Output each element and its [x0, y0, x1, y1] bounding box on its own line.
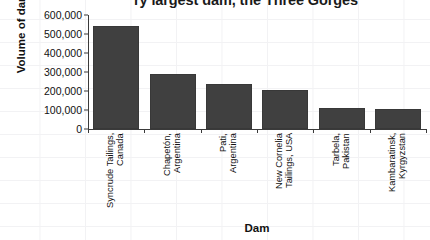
x-tick-mark — [426, 129, 427, 133]
x-tick-mark — [201, 129, 202, 133]
y-tick-label: 0 — [76, 123, 82, 135]
y-tick-mark — [84, 72, 88, 73]
x-category-label: Kambaratinsk, Kyrgyzstan — [387, 133, 408, 219]
y-tick-mark — [84, 15, 88, 16]
x-tick-mark — [88, 129, 89, 133]
bar — [206, 84, 252, 129]
plot-area: 0100,000200,000300,000400,000500,000600,… — [88, 15, 426, 129]
y-axis-title: Volume of dam (m³) — [14, 0, 28, 79]
y-tick-mark — [84, 53, 88, 54]
x-tick-mark — [144, 129, 145, 133]
y-tick-mark — [84, 110, 88, 111]
y-tick-mark — [84, 34, 88, 35]
y-tick-mark — [84, 91, 88, 92]
bar — [150, 74, 196, 129]
bar-chart: ry largest dam, the Three Gorges Volume … — [0, 0, 430, 240]
x-tick-mark — [313, 129, 314, 133]
y-tick-label: 200,000 — [44, 85, 82, 97]
x-axis-title: Dam — [88, 222, 426, 234]
x-category-label: Chapetón, Argentina — [162, 133, 183, 219]
bar — [93, 26, 139, 129]
bar — [319, 108, 365, 129]
y-axis-line — [88, 15, 89, 129]
y-tick-label: 600,000 — [44, 9, 82, 21]
x-category-label: New Cornelia Tailings, USA — [274, 133, 295, 219]
bar — [262, 90, 308, 129]
x-tick-mark — [257, 129, 258, 133]
x-category-label: Pati, Argentina — [218, 133, 239, 219]
chart-title: ry largest dam, the Three Gorges — [62, 0, 430, 9]
y-tick-label: 300,000 — [44, 66, 82, 78]
y-tick-label: 400,000 — [44, 47, 82, 59]
x-category-label: Syncrude Tailings, Canada — [105, 133, 126, 219]
y-tick-label: 500,000 — [44, 28, 82, 40]
x-tick-mark — [370, 129, 371, 133]
x-category-label: Tarbela, Pakistan — [331, 133, 352, 219]
y-tick-label: 100,000 — [44, 104, 82, 116]
bar — [375, 109, 421, 129]
